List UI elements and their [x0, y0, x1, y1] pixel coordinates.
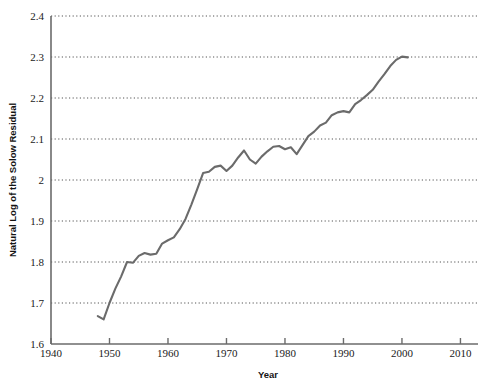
- y-tick-label: 2.3: [30, 51, 44, 63]
- y-tick-label: 2: [39, 174, 45, 186]
- y-tick-label: 1.8: [30, 256, 44, 268]
- chart-canvas: 19401950196019701980199020002010 1.61.71…: [0, 0, 494, 384]
- x-axis-title: Year: [258, 369, 278, 380]
- x-tick-label: 1980: [274, 347, 297, 359]
- x-tick-label: 1990: [332, 347, 355, 359]
- figure-background: [0, 0, 494, 384]
- y-tick-label: 1.7: [30, 297, 44, 309]
- x-tick-label: 2000: [391, 347, 414, 359]
- y-axis-title: Natural Log of the Solow Residual: [7, 103, 18, 257]
- y-tick-label: 2.2: [30, 92, 44, 104]
- solow-residual-figure: 19401950196019701980199020002010 1.61.71…: [0, 0, 494, 384]
- y-tick-label: 1.6: [30, 338, 44, 350]
- x-tick-label: 1950: [98, 347, 121, 359]
- x-tick-label: 2010: [449, 347, 472, 359]
- y-tick-label: 2.4: [30, 10, 44, 22]
- x-tick-label: 1970: [215, 347, 238, 359]
- y-tick-label: 1.9: [30, 215, 44, 227]
- y-tick-label: 2.1: [30, 133, 44, 145]
- x-tick-label: 1960: [157, 347, 180, 359]
